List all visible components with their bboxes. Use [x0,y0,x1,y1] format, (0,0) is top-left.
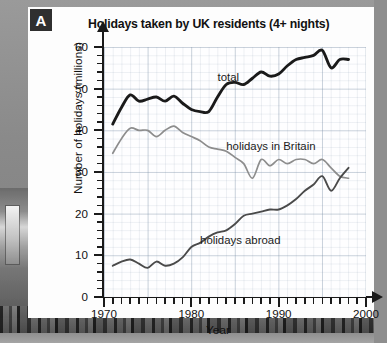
x-tick-1976 [156,298,158,304]
plot-area [104,47,366,297]
y-tick-38 [97,138,103,140]
x-tick-1987 [252,298,254,304]
series-line-holidays-abroad [113,168,349,268]
x-axis-arrow [372,291,383,303]
x-axis-title: Year [178,323,258,337]
x-tick-1997 [339,298,341,304]
y-tick-48 [97,96,103,98]
x-tick-label-1990: 1990 [251,307,307,320]
y-tick-56 [97,63,103,65]
y-tick-46 [97,105,103,107]
y-tick-label-40: 40 [42,123,88,136]
y-tick-58 [97,55,103,57]
x-tick-1995 [322,298,324,304]
series-label-holidays-in-Britain: holidays in Britain [226,140,315,152]
series-label-holidays-abroad: holidays abroad [200,234,280,246]
y-tick-6 [97,271,103,273]
x-tick-1975 [147,298,149,304]
x-tick-1999 [356,298,358,304]
x-tick-label-1980: 1980 [163,307,219,320]
x-tick-1992 [295,298,297,304]
x-tick-1971 [112,298,114,304]
x-tick-label-1970: 1970 [76,307,132,320]
x-tick-1996 [330,298,332,304]
y-tick-36 [97,146,103,148]
chart-title: Holidays taken by UK residents (4+ night… [88,17,387,31]
series-label-total: total [218,71,240,83]
y-tick-0 [94,296,103,298]
y-tick-20 [94,213,103,215]
x-tick-1978 [173,298,175,304]
y-tick-54 [97,71,103,73]
y-tick-24 [97,196,103,198]
x-tick-1982 [208,298,210,304]
decorative-photo-left [0,188,30,318]
x-tick-1980 [190,298,192,307]
y-tick-14 [97,238,103,240]
y-tick-28 [97,180,103,182]
y-tick-2 [97,288,103,290]
x-tick-1990 [278,298,280,307]
x-tick-1991 [287,298,289,304]
y-tick-4 [97,280,103,282]
panel-badge: A [30,9,52,31]
y-tick-52 [97,80,103,82]
y-tick-18 [97,221,103,223]
x-tick-1993 [304,298,306,304]
y-tick-10 [94,254,103,256]
y-tick-44 [97,113,103,115]
x-tick-1974 [138,298,140,304]
data-series-group [104,47,366,297]
y-tick-42 [97,121,103,123]
y-tick-34 [97,155,103,157]
x-tick-2000 [365,298,367,307]
y-tick-label-10: 10 [42,248,88,261]
y-tick-label-0: 0 [42,290,88,303]
x-tick-1998 [348,298,350,304]
x-tick-1984 [225,298,227,304]
y-tick-label-60: 60 [42,40,88,53]
y-tick-50 [94,88,103,90]
y-tick-60 [94,46,103,48]
y-tick-30 [94,171,103,173]
y-tick-40 [94,129,103,131]
x-tick-1970 [103,298,105,307]
y-tick-label-20: 20 [42,207,88,220]
series-line-total [113,50,349,124]
y-tick-label-30: 30 [42,165,88,178]
x-tick-1983 [217,298,219,304]
chart-card: Holidays taken by UK residents (4+ night… [28,7,374,318]
y-tick-22 [97,205,103,207]
x-tick-1977 [164,298,166,304]
y-tick-12 [97,246,103,248]
x-tick-1972 [121,298,123,304]
x-tick-1989 [269,298,271,304]
x-tick-1973 [129,298,131,304]
y-tick-8 [97,263,103,265]
y-tick-label-50: 50 [42,82,88,95]
x-tick-1986 [243,298,245,304]
x-tick-1979 [182,298,184,304]
y-tick-32 [97,163,103,165]
y-tick-26 [97,188,103,190]
y-tick-16 [97,230,103,232]
x-tick-1988 [260,298,262,304]
x-tick-1985 [234,298,236,304]
x-tick-1981 [199,298,201,304]
x-tick-label-2000: 2000 [338,307,387,320]
x-tick-1994 [313,298,315,304]
series-line-holidays-in-Britain [113,126,349,178]
